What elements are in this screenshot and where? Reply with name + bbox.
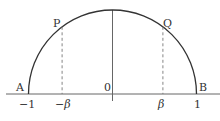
tick-label-neg-one: −1	[19, 98, 35, 111]
point-label-a: A	[15, 81, 25, 94]
tick-label-zero: 0	[104, 81, 111, 94]
diagram: A B P Q −1 −β 0 β 1	[0, 0, 220, 121]
tick-label-beta: β	[157, 98, 164, 111]
tick-label-one: 1	[194, 98, 201, 111]
point-label-p: P	[53, 17, 61, 30]
tick-label-neg-beta: −β	[55, 98, 71, 111]
point-label-b: B	[199, 81, 207, 94]
point-label-q: Q	[163, 17, 172, 30]
